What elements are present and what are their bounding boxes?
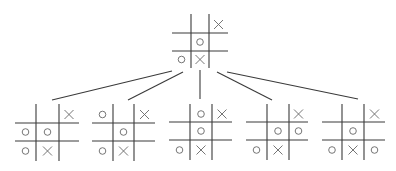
game-tree-diagram bbox=[0, 0, 396, 171]
tree-edges bbox=[52, 70, 358, 100]
board-child-2 bbox=[92, 104, 155, 161]
board-grid bbox=[169, 104, 232, 160]
x-mark-icon bbox=[349, 146, 358, 155]
o-mark-icon bbox=[350, 128, 357, 135]
o-mark-icon bbox=[275, 128, 282, 135]
o-mark-icon bbox=[176, 147, 183, 154]
x-mark-icon bbox=[43, 147, 52, 156]
x-mark-icon bbox=[197, 146, 206, 155]
board-child-5 bbox=[322, 104, 385, 160]
board-child-4 bbox=[246, 104, 308, 160]
x-mark-icon bbox=[196, 55, 205, 64]
o-mark-icon bbox=[99, 111, 106, 118]
o-mark-icon bbox=[198, 128, 205, 135]
board-child-3 bbox=[169, 104, 232, 160]
x-mark-icon bbox=[140, 110, 149, 119]
x-mark-icon bbox=[274, 146, 283, 155]
x-mark-icon bbox=[218, 110, 227, 119]
o-mark-icon bbox=[120, 129, 127, 136]
tree-edge-child-4 bbox=[217, 72, 272, 100]
x-mark-icon bbox=[119, 147, 128, 156]
o-mark-icon bbox=[22, 148, 29, 155]
tree-edge-child-1 bbox=[52, 71, 172, 100]
root-board bbox=[172, 14, 228, 68]
board-grid bbox=[92, 104, 155, 161]
x-mark-icon bbox=[294, 110, 303, 119]
o-mark-icon bbox=[371, 147, 378, 154]
o-mark-icon bbox=[329, 147, 336, 154]
board-grid bbox=[15, 104, 79, 161]
o-mark-icon bbox=[253, 147, 260, 154]
o-mark-icon bbox=[99, 148, 106, 155]
o-mark-icon bbox=[198, 111, 205, 118]
x-mark-icon bbox=[214, 20, 223, 29]
tree-edge-child-2 bbox=[128, 72, 183, 100]
o-mark-icon bbox=[178, 56, 185, 63]
x-mark-icon bbox=[65, 110, 74, 119]
o-mark-icon bbox=[22, 129, 29, 136]
x-mark-icon bbox=[370, 110, 379, 119]
o-mark-icon bbox=[295, 128, 302, 135]
board-child-1 bbox=[15, 104, 79, 161]
tree-edge-child-5 bbox=[227, 72, 358, 99]
o-mark-icon bbox=[197, 39, 204, 46]
o-mark-icon bbox=[44, 129, 51, 136]
game-tree-canvas bbox=[0, 0, 396, 171]
